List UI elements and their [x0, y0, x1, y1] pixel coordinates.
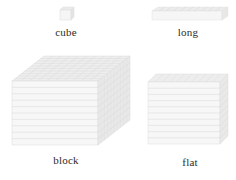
base-ten-blocks-diagram: cube long [0, 0, 236, 180]
block-label: block [36, 154, 96, 166]
long-svg [150, 6, 230, 24]
flat-label: flat [166, 156, 214, 168]
long-shape [150, 6, 230, 24]
block-svg [10, 54, 132, 150]
block-shape [10, 54, 132, 150]
cube-svg [57, 6, 75, 22]
flat-svg [146, 72, 230, 150]
long-front-face [152, 11, 222, 20]
cube-front-face [60, 10, 71, 20]
long-label: long [160, 26, 216, 38]
cube-shape [57, 6, 75, 22]
flat-shape [146, 72, 230, 150]
cube-label: cube [38, 26, 94, 38]
